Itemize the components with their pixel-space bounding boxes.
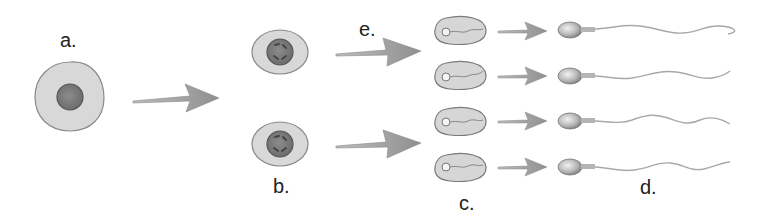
row-3 [435, 108, 730, 136]
row-1 [435, 17, 735, 45]
stage-d-sperm [558, 159, 730, 175]
stage-d-sperm [558, 68, 730, 84]
stage-c-cell [435, 154, 486, 182]
stage-b-cell-bottom [252, 122, 308, 166]
label-c: c. [459, 193, 475, 213]
arrow-c-to-d [498, 112, 547, 130]
spermatogenesis-diagram: a. e. b. c. d. [0, 0, 763, 218]
arrow-c-to-d [498, 158, 547, 176]
stage-c-cell [435, 108, 486, 136]
label-b: b. [273, 176, 290, 196]
arrow-c-to-d [498, 67, 547, 85]
label-a: a. [60, 30, 77, 50]
arrow-b-top-to-c [336, 38, 421, 66]
stage-b-cell-top [252, 30, 308, 74]
arrow-a-to-b [133, 84, 219, 112]
nucleus-icon [57, 84, 83, 110]
stage-c-cell [435, 17, 486, 45]
arrow-c-to-d [498, 22, 547, 40]
label-e: e. [359, 19, 376, 39]
stage-d-sperm [558, 113, 730, 129]
stage-d-sperm [558, 22, 735, 38]
label-d: d. [640, 177, 657, 197]
stage-a-cell [35, 62, 104, 131]
row-4 [435, 154, 730, 182]
stage-c-cell [435, 62, 486, 90]
row-2 [435, 62, 730, 90]
arrow-b-bottom-to-c [336, 130, 421, 158]
